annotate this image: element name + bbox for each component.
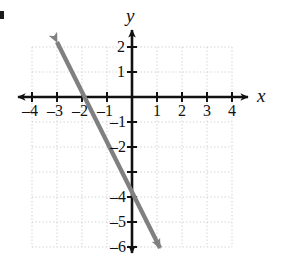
plotted-line <box>57 42 160 248</box>
y-tick-label-neg5: –5 <box>110 214 126 230</box>
coordinate-plane <box>0 0 281 262</box>
x-axis-label: x <box>257 86 265 105</box>
y-tick-label-2: 2 <box>117 39 125 55</box>
x-tick-label-3: 3 <box>203 103 211 119</box>
y-tick-label-neg6: –6 <box>110 239 126 255</box>
x-tick-label-1: 1 <box>153 103 161 119</box>
y-tick-label-neg2: –2 <box>110 139 126 155</box>
x-tick-label-neg2: –2 <box>72 103 88 119</box>
y-tick-label-1: 1 <box>117 64 125 80</box>
y-tick-label-neg1: –1 <box>110 114 126 130</box>
x-tick-label-2: 2 <box>178 103 186 119</box>
x-tick-label-neg4: –4 <box>22 103 38 119</box>
x-tick-label-neg3: –3 <box>47 103 63 119</box>
graph-figure: –4 –3 –2 –1 1 2 3 4 2 1 –1 –2 –4 –5 –6 x… <box>0 0 281 262</box>
x-tick-label-4: 4 <box>228 103 236 119</box>
y-axis-label: y <box>126 6 134 25</box>
y-tick-label-neg4: –4 <box>110 189 126 205</box>
